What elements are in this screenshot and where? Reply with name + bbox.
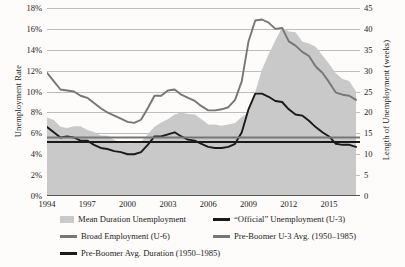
y-axis-right-tick-label: 0	[364, 191, 394, 201]
legend-label: Pre-Boomer Avg. Duration (1950–1985)	[81, 249, 220, 258]
x-axis-tick-label: 1994	[27, 199, 67, 209]
y-axis-right-tick-label: 35	[364, 45, 394, 55]
y-axis-right-tick-label: 15	[364, 128, 394, 138]
x-axis-tick-label: 2003	[148, 199, 188, 209]
y-axis-right-tick-label: 10	[364, 149, 394, 159]
legend-item[interactable]: “Official” Unemployment (U-3)	[213, 215, 345, 224]
legend-label: Pre-Boomer U-3 Avg. (1950–1985)	[234, 232, 356, 241]
legend-swatch-icon	[213, 218, 230, 221]
legend-label: Mean Duration Unemployment	[78, 215, 186, 224]
y-axis-left-tick-label: 18%	[2, 3, 42, 13]
chart-legend: Mean Duration UnemploymentBroad Employme…	[0, 214, 405, 267]
legend-swatch-icon	[60, 252, 77, 255]
x-axis-line	[47, 195, 360, 196]
y-axis-right-tick-label: 45	[364, 3, 394, 13]
series-layer	[47, 8, 360, 196]
legend-item[interactable]: Mean Duration Unemployment	[60, 215, 186, 224]
y-axis-right-tick-label: 20	[364, 107, 394, 117]
legend-item[interactable]: Pre-Boomer Avg. Duration (1950–1985)	[60, 249, 220, 258]
legend-item[interactable]: Broad Employment (U-6)	[60, 232, 170, 241]
legend-label: Broad Employment (U-6)	[81, 232, 170, 241]
y-axis-right-tick-label: 30	[364, 66, 394, 76]
y-axis-left-title: Unemployment Rate	[13, 36, 23, 166]
legend-swatch-icon	[213, 235, 230, 238]
y-axis-right-tick-label: 25	[364, 87, 394, 97]
y-axis-right-tick-label: 5	[364, 170, 394, 180]
x-axis-tick-label: 2000	[108, 199, 148, 209]
x-axis-tick-label: 2009	[229, 199, 269, 209]
legend-swatch-icon	[60, 216, 74, 223]
y-axis-left-tick-label: 8%	[2, 107, 42, 117]
y-axis-left-tick-label: 10%	[2, 87, 42, 97]
y-axis-left-tick-label: 16%	[2, 24, 42, 34]
y-axis-left-tick-label: 12%	[2, 66, 42, 76]
y-axis-right-tick-label: 40	[364, 24, 394, 34]
y-axis-left-tick-label: 14%	[2, 45, 42, 55]
chart-container: Unemployment Rate Length of Unemployment…	[0, 0, 405, 267]
legend-swatch-icon	[60, 235, 77, 238]
y-axis-left-tick-label: 4%	[2, 149, 42, 159]
x-axis-tick-label: 2015	[309, 199, 349, 209]
x-axis-tick-label: 2012	[269, 199, 309, 209]
plot-area	[47, 8, 360, 196]
legend-item[interactable]: Pre-Boomer U-3 Avg. (1950–1985)	[213, 232, 356, 241]
y-axis-left-tick-label: 6%	[2, 128, 42, 138]
x-axis-tick-label: 2006	[188, 199, 228, 209]
series-area	[47, 27, 356, 196]
x-axis-tick-label: 1997	[67, 199, 107, 209]
legend-label: “Official” Unemployment (U-3)	[234, 215, 345, 224]
y-axis-left-tick-label: 2%	[2, 170, 42, 180]
